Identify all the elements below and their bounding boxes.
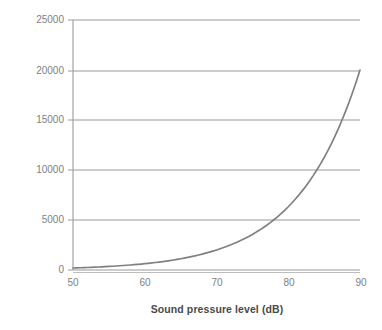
y-tick-label-0: 0 — [18, 265, 64, 275]
y-tick-label-10000: 10000 — [18, 165, 64, 175]
x-tick-label-50: 50 — [53, 278, 93, 288]
y-tick-label-25000: 25000 — [18, 15, 64, 25]
x-tick-label-70: 70 — [197, 278, 237, 288]
data-series-line — [73, 70, 360, 268]
gridlines — [73, 20, 360, 270]
y-tick-label-15000: 15000 — [18, 115, 64, 125]
x-axis-title: Sound pressure level (dB) — [73, 303, 361, 315]
y-axis-ticks — [68, 20, 73, 270]
y-tick-label-5000: 5000 — [18, 215, 64, 225]
x-tick-label-80: 80 — [269, 278, 309, 288]
chart-container: 25000 20000 15000 10000 5000 0 50 60 70 … — [0, 0, 382, 330]
x-tick-label-60: 60 — [125, 278, 165, 288]
x-tick-label-90: 90 — [341, 278, 381, 288]
y-tick-label-20000: 20000 — [18, 66, 64, 76]
